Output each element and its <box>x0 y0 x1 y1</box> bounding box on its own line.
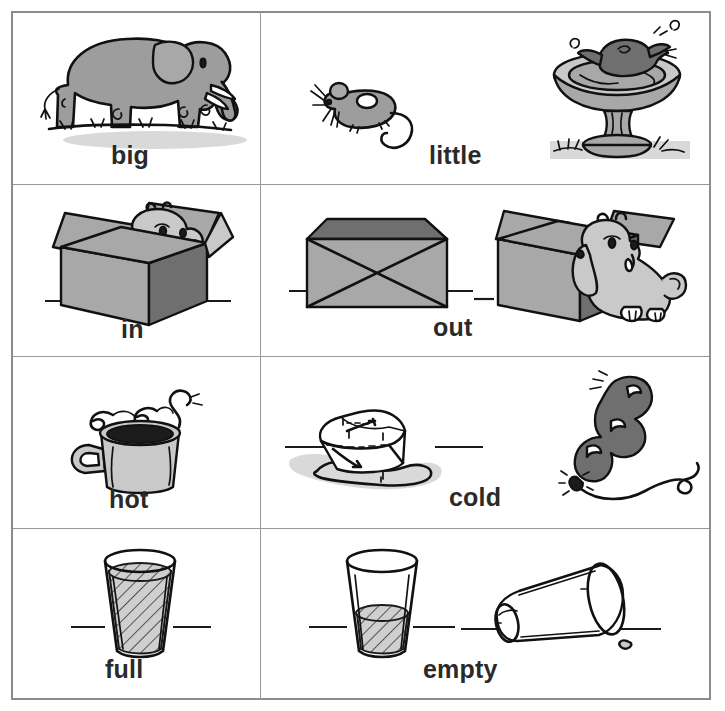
elephant-illustration <box>35 23 250 148</box>
label-big: big <box>111 141 149 170</box>
cell-out[interactable]: out <box>261 185 713 356</box>
worksheet-row: big little <box>13 13 709 185</box>
ice-cube-illustration <box>285 387 485 497</box>
cell-cold[interactable]: cold <box>261 357 713 528</box>
balloon-illustration <box>559 369 704 509</box>
cell-little[interactable]: little <box>261 13 713 184</box>
label-full: full <box>105 655 143 684</box>
partly-filled-glass-illustration <box>303 541 463 663</box>
label-little: little <box>429 141 482 170</box>
cell-full[interactable]: full <box>13 529 261 700</box>
label-out: out <box>433 313 472 342</box>
worksheet-row: full <box>13 529 709 700</box>
worksheet-row: in out <box>13 185 709 357</box>
tipped-empty-glass-illustration <box>461 553 661 661</box>
mouse-illustration <box>311 61 431 161</box>
steaming-mug-illustration <box>53 371 233 496</box>
closed-box-illustration <box>289 213 474 313</box>
label-cold: cold <box>449 483 501 512</box>
cell-big[interactable]: big <box>13 13 261 184</box>
cell-hot[interactable]: hot <box>13 357 261 528</box>
dog-out-of-box-illustration <box>474 193 689 333</box>
worksheet-row: hot <box>13 357 709 529</box>
full-glass-illustration <box>61 541 221 663</box>
cell-empty[interactable]: empty <box>261 529 713 700</box>
dog-in-box-illustration <box>37 197 242 329</box>
birdbath-illustration <box>544 19 694 167</box>
opposites-worksheet: big little <box>11 11 711 700</box>
cell-in[interactable]: in <box>13 185 261 356</box>
label-in: in <box>121 315 144 344</box>
label-hot: hot <box>109 485 148 514</box>
